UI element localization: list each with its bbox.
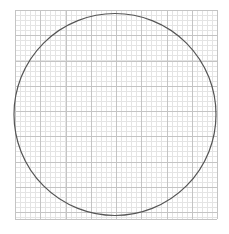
circle-on-graph-paper bbox=[0, 0, 229, 234]
circle-shape bbox=[14, 14, 216, 216]
